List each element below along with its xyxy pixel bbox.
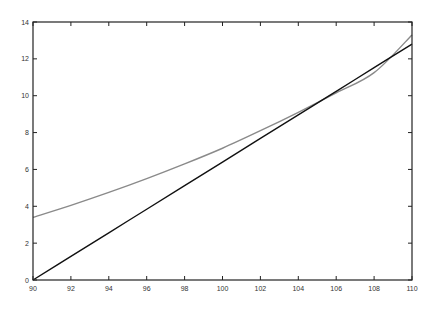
x-axis-ticks: 9092949698100102104106108110 [29,22,418,292]
y-tick-label: 12 [21,55,29,62]
y-tick-label: 2 [25,240,29,247]
series-line-0 [33,35,412,217]
series-layer [33,35,412,280]
y-tick-label: 14 [21,19,29,26]
x-tick-label: 98 [181,285,189,292]
y-tick-label: 8 [25,129,29,136]
y-tick-label: 10 [21,92,29,99]
line-chart: 9092949698100102104106108110 02468101214 [0,0,442,309]
y-tick-label: 6 [25,166,29,173]
x-tick-label: 96 [143,285,151,292]
series-line-1 [33,44,412,280]
x-tick-label: 110 [406,285,417,292]
y-tick-label: 4 [25,203,29,210]
x-tick-label: 106 [330,285,342,292]
x-tick-label: 108 [368,285,380,292]
x-tick-label: 100 [217,285,229,292]
y-tick-label: 0 [25,277,29,284]
x-tick-label: 90 [29,285,37,292]
x-tick-label: 92 [67,285,75,292]
axes-box [33,22,412,280]
x-tick-label: 102 [255,285,267,292]
x-tick-label: 104 [292,285,304,292]
x-tick-label: 94 [105,285,113,292]
